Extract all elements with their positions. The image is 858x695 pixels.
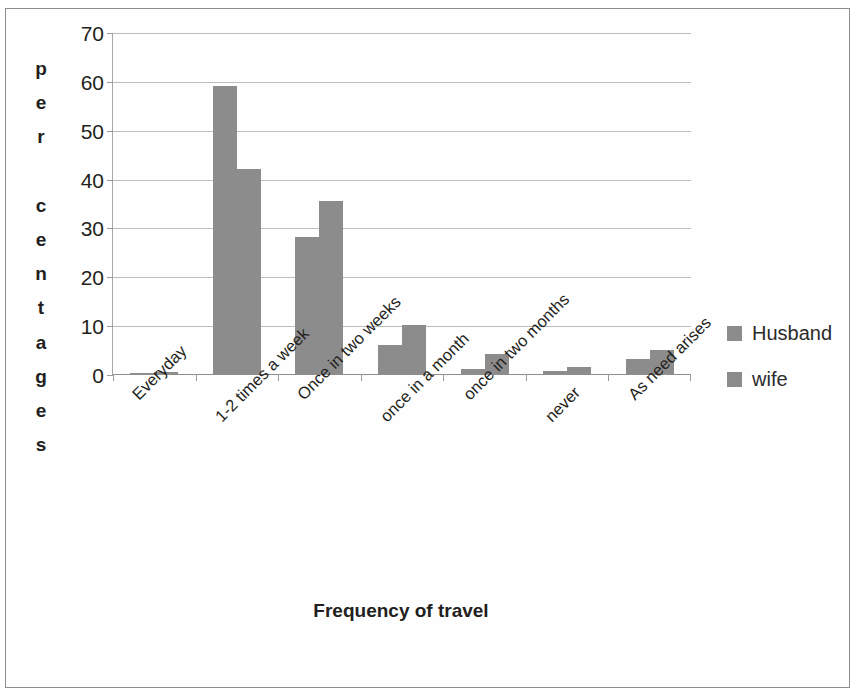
x-axis-label: As need arises (625, 314, 714, 403)
legend-label: wife (752, 369, 788, 389)
chart-legend: Husbandwife (727, 310, 851, 402)
bar-chart: p e r c e n t a g e s 010203040506070 Ev… (0, 0, 858, 695)
x-axis-label: never (542, 384, 583, 425)
legend-swatch-icon (727, 326, 742, 341)
x-axis-label: once in a month (377, 330, 472, 425)
x-axis-title: Frequency of travel (112, 600, 690, 622)
legend-item[interactable]: wife (727, 356, 851, 402)
x-axis-label: 1-2 times a week (212, 325, 312, 425)
legend-item[interactable]: Husband (727, 310, 851, 356)
legend-label: Husband (752, 323, 832, 343)
x-axis-label: Once in two weeks (294, 293, 404, 403)
x-axis-label: Everyday (129, 342, 189, 402)
legend-swatch-icon (727, 372, 742, 387)
x-axis-label: once in two months (460, 290, 572, 402)
